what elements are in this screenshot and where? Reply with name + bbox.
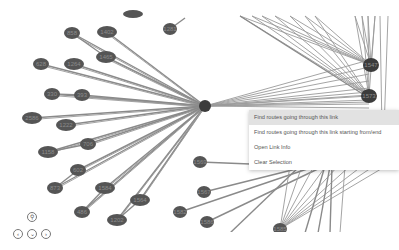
graph-node[interactable]: 1402 [97, 26, 117, 38]
graph-node[interactable]: 1547 [363, 58, 379, 72]
graph-node[interactable]: 1569 [193, 156, 207, 168]
node-label: 1582 [173, 209, 187, 215]
graph-node[interactable]: 1564 [130, 194, 150, 206]
graph-node[interactable]: 393 [74, 89, 90, 101]
graph-node[interactable] [199, 100, 211, 112]
node-label: 1222 [59, 122, 73, 128]
node-label: 1573 [362, 93, 376, 99]
node-label: 2586 [25, 115, 39, 121]
graph-node[interactable]: 602 [70, 164, 86, 176]
graph-node[interactable] [123, 10, 143, 18]
graph-node[interactable]: 706 [80, 138, 96, 150]
pan-left-icon: ‹ [17, 231, 19, 237]
graph-node[interactable]: 330 [44, 88, 60, 100]
graph-link[interactable] [280, 166, 374, 229]
node-label: 1586 [200, 219, 214, 225]
node-label: 602 [73, 167, 84, 173]
zoom-button[interactable]: ⚲ [27, 212, 37, 222]
menu-item-find-routes[interactable]: Find routes going through this link [249, 110, 399, 125]
graph-node[interactable]: 1222 [56, 119, 76, 131]
graph-link[interactable] [330, 166, 332, 233]
node-label: 1264 [67, 61, 81, 67]
graph-link[interactable] [275, 16, 369, 96]
graph-link[interactable] [280, 166, 386, 229]
graph-node[interactable]: 1202 [107, 214, 127, 226]
menu-item-open-link-info[interactable]: Open Link Info [249, 140, 399, 155]
graph-node[interactable]: 1158 [38, 146, 58, 158]
node-label: 873 [50, 185, 61, 191]
graph-link[interactable] [55, 107, 205, 190]
context-menu: Find routes going through this link Find… [249, 110, 399, 170]
node-label: 628 [36, 61, 47, 67]
node-label: 1202 [110, 217, 124, 223]
pan-down-button[interactable]: ⌄ [27, 229, 37, 239]
graph-node[interactable]: 2586 [22, 112, 42, 124]
graph-node[interactable]: 628 [33, 58, 49, 70]
pan-right-button[interactable]: › [41, 229, 51, 239]
graph-link[interactable] [318, 166, 330, 233]
node-label: 1158 [42, 149, 56, 155]
node-label: 486 [77, 209, 88, 215]
graph-link[interactable] [32, 106, 205, 118]
graph-link[interactable] [369, 16, 375, 96]
graph-node[interactable]: 873 [47, 182, 63, 194]
graph-node[interactable]: 1567 [197, 186, 211, 198]
graph-node[interactable]: 486 [74, 206, 90, 218]
node-label: 330 [47, 91, 58, 97]
graph-link[interactable] [205, 106, 369, 108]
graph-node[interactable]: 1582 [173, 206, 187, 218]
node-label: 1564 [133, 197, 147, 203]
pan-right-icon: › [45, 231, 47, 237]
navigation-controls: ⚲ ‹ ⌄ › [10, 212, 58, 248]
node-label: 1567 [197, 189, 211, 195]
menu-item-clear-selection[interactable]: Clear Selection [249, 155, 399, 170]
graph-node[interactable]: 1264 [64, 58, 84, 70]
graph-node[interactable]: 858 [64, 27, 80, 39]
node-label: 1465 [99, 54, 113, 60]
node-label: 858 [67, 30, 78, 36]
graph-node[interactable]: 1465 [96, 51, 116, 63]
pan-down-icon: ⌄ [30, 231, 35, 237]
node-label: 706 [83, 141, 94, 147]
pan-left-button[interactable]: ‹ [13, 229, 23, 239]
graph-node[interactable]: 1573 [361, 89, 377, 103]
graph-link[interactable] [305, 166, 325, 233]
graph-node[interactable]: 1584 [95, 182, 115, 194]
canvas-bottom-edge [0, 232, 399, 250]
graph-link[interactable] [117, 106, 205, 220]
node-label: 1547 [364, 62, 378, 68]
graph-link[interactable] [340, 166, 345, 233]
graph-link[interactable] [252, 16, 371, 65]
node-label: 1584 [98, 185, 112, 191]
magnifier-icon: ⚲ [30, 214, 34, 220]
graph-link[interactable] [107, 34, 205, 108]
graph-node[interactable]: 1586 [200, 216, 214, 228]
node-label: 1281 [163, 26, 177, 32]
node-label: 393 [77, 92, 88, 98]
node-label: 1569 [193, 159, 207, 165]
menu-item-find-routes-start-end[interactable]: Find routes going through this link star… [249, 125, 399, 140]
graph-link[interactable] [117, 107, 205, 222]
node-label: 1402 [100, 29, 114, 35]
